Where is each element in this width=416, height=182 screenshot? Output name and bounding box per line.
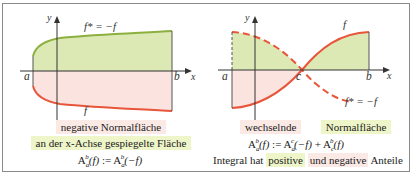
left-upper-curve-label: f* = −f [84, 20, 116, 32]
left-caption-2-text: an der x-Achse gespiegelte Fläche [31, 136, 192, 150]
left-caption-1: negative Normalfläche [36, 121, 186, 133]
left-lower-curve-label: f [84, 104, 87, 116]
left-y-label: y [47, 12, 51, 23]
right-green-area-left [232, 32, 302, 70]
right-pink-area [232, 70, 302, 108]
right-fstar-label: f* = −f [345, 95, 377, 107]
right-caption-1: wechselnde Normalfläche [240, 121, 391, 133]
right-b-label: b [366, 70, 372, 82]
right-caption-word1: wechselnde [240, 120, 301, 134]
left-pink-area [33, 71, 172, 111]
left-a-label: a [24, 70, 30, 82]
right-x-label: x [387, 70, 391, 81]
left-formula: Aab(f) := Aab(−f) [40, 153, 180, 169]
right-a-label: a [222, 70, 228, 82]
right-formula: Aab(f) := Aac(−f) + Acb(f) [248, 137, 344, 153]
left-green-area [33, 31, 172, 71]
right-caption-3: Integral hat positive und negative Antei… [213, 154, 403, 166]
left-b-label: b [174, 70, 180, 82]
right-green-area-right [302, 32, 369, 70]
negative-highlight: und negative [308, 153, 369, 167]
left-x-label: x [191, 71, 195, 82]
right-caption-word2: Normalfläche [321, 120, 391, 134]
left-caption-2: an der x-Achse gespiegelte Fläche [26, 137, 196, 149]
left-caption-1-text: negative Normalfläche [56, 120, 166, 134]
right-f-label: f [343, 18, 346, 30]
right-c-label: c [296, 70, 301, 82]
right-y-label: y [245, 12, 249, 23]
positive-highlight: positive [266, 153, 305, 167]
